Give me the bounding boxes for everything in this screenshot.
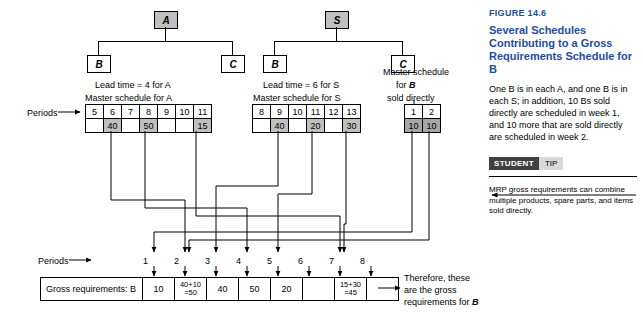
schedule-a-period-cell: 6	[104, 105, 122, 119]
schedule-b-value-row: 10 10	[405, 119, 441, 133]
schedule-a-period-cell: 11	[194, 105, 212, 119]
figure-sidebar: FIGURE 14.6 Several Schedules Contributi…	[489, 8, 637, 217]
tree-a-child-c-label: C	[229, 59, 236, 70]
schedule-a-value-cell: 40	[104, 119, 122, 133]
master-schedule-a-table: 5 6 7 8 9 10 11 40 50 15	[85, 104, 212, 133]
tip-tag: TIP	[539, 157, 563, 170]
schedule-s-period-cell: 11	[307, 105, 325, 119]
master-schedule-s-table: 8 9 10 11 12 13 40 20 30	[252, 104, 361, 133]
schedule-s-value-cell	[253, 119, 271, 133]
student-tag: STUDENT	[489, 157, 539, 170]
schedule-b-period-cell: 1	[405, 105, 423, 119]
schedule-a-period-cell: 5	[86, 105, 104, 119]
gross-period-number: 2	[174, 256, 179, 266]
student-tip-text: MRP gross requirements can combine multi…	[489, 185, 637, 217]
gross-requirements-row: Gross requirements: B 10 40+10=50 40 50 …	[41, 278, 399, 301]
schedule-s-value-row: 40 20 30	[253, 119, 361, 133]
gross-requirements-label: Gross requirements: B	[41, 278, 143, 301]
schedule-a-period-cell: 9	[158, 105, 176, 119]
tree-s-child-b-node: B	[263, 55, 287, 73]
gross-period-number: 1	[143, 256, 148, 266]
schedule-s-period-cell: 13	[343, 105, 361, 119]
schedule-s-period-cell: 10	[289, 105, 307, 119]
tree-a-child-b-node: B	[87, 55, 111, 73]
tree-s-left-drop	[274, 41, 275, 55]
tree-s-crossbar	[274, 41, 402, 42]
lead-time-a-caption: Lead time = 4 for A	[95, 80, 171, 90]
schedule-b-value-cell: 10	[405, 119, 423, 133]
gross-requirements-cell	[367, 278, 399, 301]
gross-period-number: 4	[236, 256, 241, 266]
schedule-a-value-cell: 50	[140, 119, 158, 133]
master-schedule-b-for-word: for	[396, 80, 407, 90]
gross-period-number: 7	[329, 256, 334, 266]
tree-s-child-b-label: B	[271, 59, 278, 70]
tree-a-child-b-label: B	[95, 59, 102, 70]
schedule-a-period-cell: 8	[140, 105, 158, 119]
tree-a-child-c-node: C	[221, 55, 245, 73]
gross-period-number: 3	[205, 256, 210, 266]
gross-requirements-cell: 20	[271, 278, 303, 301]
master-schedule-b-caption-line1: Master schedule	[383, 67, 449, 77]
gross-period-number: 5	[267, 256, 272, 266]
schedule-s-period-row: 8 9 10 11 12 13	[253, 105, 361, 119]
master-schedule-a-caption: Master schedule for A	[85, 93, 172, 103]
schedule-s-value-cell	[325, 119, 343, 133]
master-schedule-b-caption-line2: for B	[396, 80, 416, 90]
tree-s-parent-node: S	[325, 11, 349, 29]
conclusion-line-3: requirements for B	[404, 297, 479, 307]
tree-a-crossbar	[98, 41, 232, 42]
gross-requirements-cell: 40+10=50	[175, 278, 207, 301]
schedule-b-value-cell: 10	[423, 119, 441, 133]
gross-period-number: 6	[298, 256, 303, 266]
periods-top-label: Periods	[27, 108, 58, 118]
master-schedule-b-caption-line3: sold directly	[387, 93, 435, 103]
gross-requirements-label-text: Gross requirements: B	[46, 284, 136, 294]
master-schedule-s-caption: Master schedule for S	[253, 93, 341, 103]
tree-s-stem	[336, 27, 337, 41]
schedule-a-value-cell	[122, 119, 140, 133]
schedule-s-value-cell: 40	[271, 119, 289, 133]
schedule-a-value-cell	[86, 119, 104, 133]
schedule-s-period-cell: 9	[271, 105, 289, 119]
schedule-a-value-cell	[176, 119, 194, 133]
student-tip-badge: STUDENT TIP	[489, 157, 637, 170]
schedule-s-period-cell: 8	[253, 105, 271, 119]
gross-requirements-cell: 40	[207, 278, 239, 301]
conclusion-item-b: B	[472, 297, 479, 307]
gross-requirements-cell-sum: 40+10=50	[175, 281, 206, 297]
schedule-b-period-cell: 2	[423, 105, 441, 119]
figure-description: One B is in each A, and one B is in each…	[489, 83, 637, 143]
schedule-a-period-cell: 10	[176, 105, 194, 119]
schedule-s-value-cell	[289, 119, 307, 133]
schedule-a-value-row: 40 50 15	[86, 119, 212, 133]
periods-bottom-label: Periods	[38, 256, 69, 266]
tree-a-left-drop	[98, 41, 99, 55]
master-schedule-b-table: 1 2 10 10	[404, 104, 441, 133]
tree-a-right-drop	[232, 41, 233, 55]
tree-s-parent-label: S	[334, 15, 341, 26]
schedule-b-period-row: 1 2	[405, 105, 441, 119]
figure-number: FIGURE 14.6	[489, 8, 637, 18]
gross-requirements-cell	[303, 278, 335, 301]
tree-s-right-drop	[402, 41, 403, 55]
conclusion-line-1: Therefore, these	[404, 273, 470, 283]
gross-requirements-cell-sum: 15+30=45	[335, 281, 366, 297]
conclusion-line-3-text: requirements for	[404, 297, 470, 307]
gross-requirements-table: Gross requirements: B 10 40+10=50 40 50 …	[40, 277, 399, 301]
schedule-s-value-cell: 30	[343, 119, 361, 133]
gross-period-number: 8	[360, 256, 365, 266]
sidebar-divider	[489, 176, 637, 177]
schedule-s-value-cell: 20	[307, 119, 325, 133]
conclusion-line-2: are the gross	[404, 285, 457, 295]
schedule-a-period-cell: 7	[122, 105, 140, 119]
gross-requirements-cell: 50	[239, 278, 271, 301]
schedule-a-value-cell: 15	[194, 119, 212, 133]
master-schedule-b-item: B	[409, 80, 416, 90]
tree-a-parent-node: A	[154, 11, 178, 29]
schedule-a-value-cell	[158, 119, 176, 133]
figure-title: Several Schedules Contributing to a Gros…	[489, 24, 637, 76]
tree-a-parent-label: A	[162, 15, 169, 26]
tree-a-stem	[165, 27, 166, 41]
schedule-a-period-row: 5 6 7 8 9 10 11	[86, 105, 212, 119]
